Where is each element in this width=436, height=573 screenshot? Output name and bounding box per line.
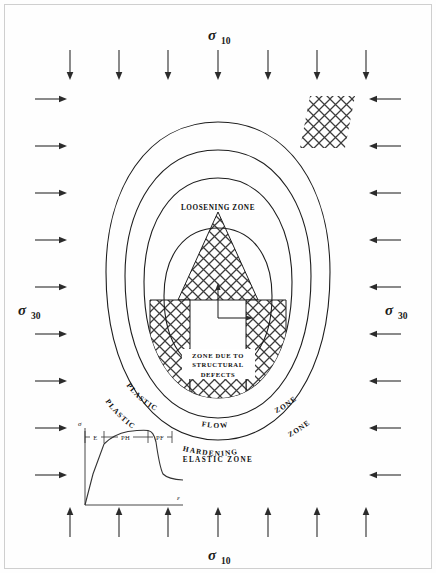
chart-xlabel: ε: [177, 494, 180, 502]
chart-segment-e: E: [93, 434, 97, 441]
stress-label-bottom: σ 10: [208, 547, 231, 566]
sigma-top-symbol: σ: [208, 27, 217, 43]
sigma-top-subscript: 10: [221, 36, 231, 46]
label-plastic-hardening-zone: PLASTIC: [104, 397, 138, 431]
label-plastic-hardening-a: PLASTIC: [104, 397, 138, 431]
label-loosening-zone: LOOSENING ZONE: [181, 204, 255, 212]
sigma-bottom-subscript: 10: [221, 556, 231, 566]
arrows-bottom: [67, 507, 370, 537]
label-plastic-flow-zone-c: ZONE: [273, 394, 299, 415]
arrows-top: [67, 50, 370, 80]
stress-label-left: σ 30: [18, 302, 41, 321]
chart-segment-ph: PH: [121, 434, 130, 441]
arrows-left: [35, 96, 67, 479]
label-elastic-zone: ELASTIC ZONE: [183, 456, 254, 464]
label-plastic-flow-a: PLASTIC: [125, 381, 160, 413]
chart-ylabel: σ: [78, 420, 82, 428]
legend-cross-hatch-patch: [300, 96, 355, 148]
arrows-right: [369, 96, 401, 479]
sigma-right-subscript: 30: [398, 311, 408, 321]
chart-series-stress-strain: [85, 430, 183, 505]
sigma-bottom-symbol: σ: [208, 547, 217, 563]
chart-segment-pf: PF: [156, 434, 164, 441]
label-plastic-hardening-c: ZONE: [286, 418, 312, 439]
label-plastic-hardening-zone-c: ZONE: [286, 418, 312, 439]
stress-label-top: σ 10: [208, 27, 231, 46]
label-plastic-flow-zone: PLASTIC: [125, 381, 160, 413]
stress-strain-inset-chart: σ ε E PH PF: [78, 420, 183, 505]
rock-mass-zoning-diagram: LOOSENING ZONE ZONE DUE TO STRUCTURAL DE…: [0, 0, 436, 573]
figure-container: LOOSENING ZONE ZONE DUE TO STRUCTURAL DE…: [0, 0, 436, 573]
label-structural-defects-line3: DEFECTS: [201, 371, 236, 378]
label-plastic-flow-b: FLOW: [201, 419, 229, 430]
sigma-left-subscript: 30: [31, 311, 41, 321]
label-plastic-flow-zone-b: FLOW: [201, 419, 229, 430]
label-structural-defects-line1: ZONE DUE TO: [192, 352, 244, 359]
sigma-right-symbol: σ: [385, 302, 394, 318]
label-structural-defects-line2: STRUCTURAL: [192, 361, 243, 368]
sigma-left-symbol: σ: [18, 302, 27, 318]
stress-label-right: σ 30: [385, 302, 408, 321]
label-plastic-flow-c: ZONE: [273, 394, 299, 415]
